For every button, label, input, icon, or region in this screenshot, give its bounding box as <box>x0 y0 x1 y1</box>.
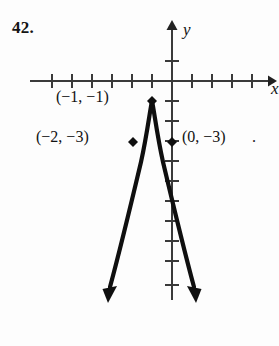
vertex-point-label: (−1, −1) <box>56 88 109 106</box>
parabola-right-arrow-icon <box>187 286 202 303</box>
right-point-label: (0, −3) <box>182 128 226 146</box>
y-axis-label: y <box>183 20 191 40</box>
figure-page: 42. <box>0 0 279 346</box>
point-marker-right <box>167 137 177 147</box>
point-marker-vertex <box>147 96 157 106</box>
point-marker-left <box>128 137 138 147</box>
parabola-graph <box>0 0 279 346</box>
trailing-period: . <box>252 128 256 146</box>
y-axis-arrow-icon <box>167 20 178 30</box>
left-point-label: (−2, −3) <box>36 128 89 146</box>
parabola-left-arrow-icon <box>103 286 118 303</box>
x-axis-label: x <box>271 79 279 99</box>
